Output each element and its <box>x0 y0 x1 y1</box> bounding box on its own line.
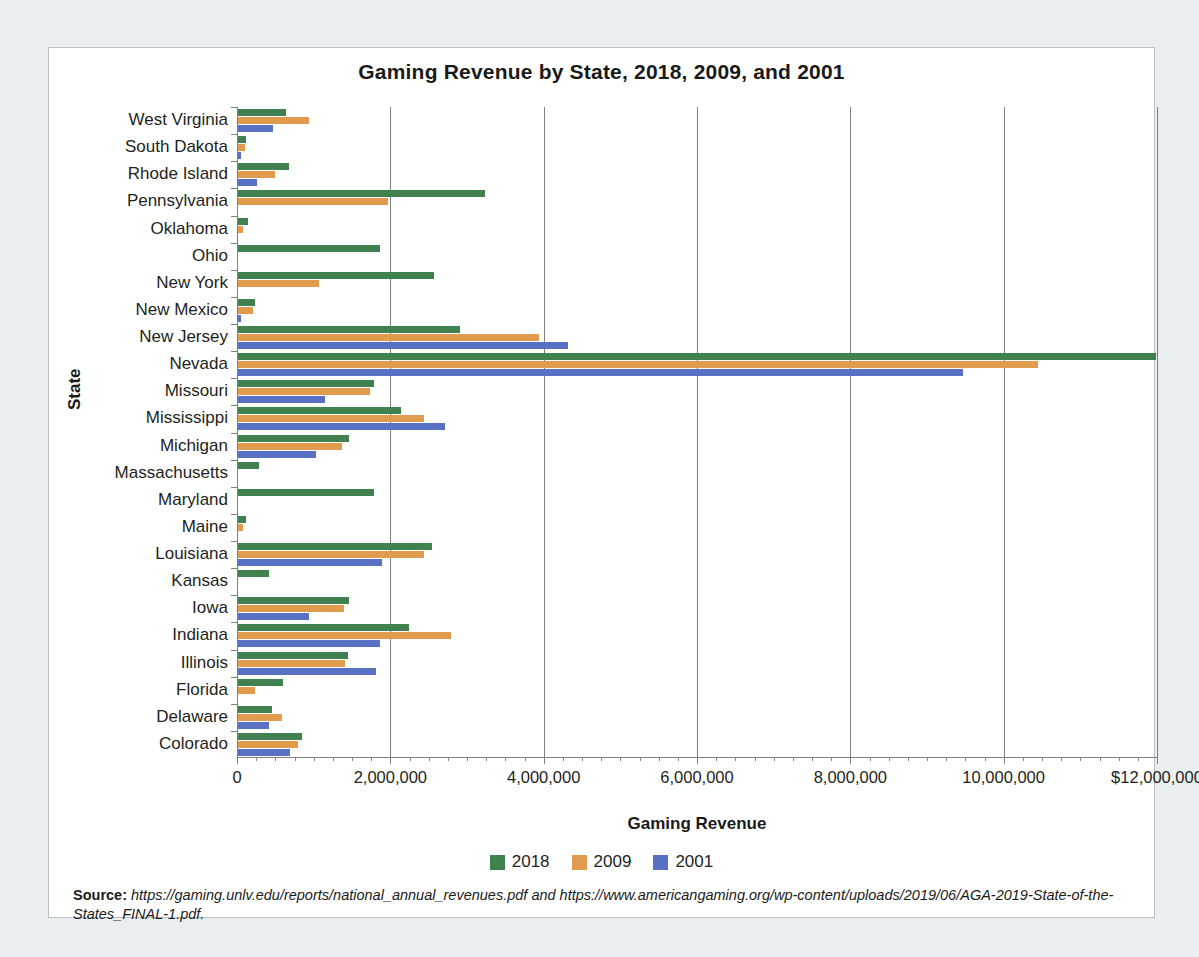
y-axis-tick <box>231 595 237 596</box>
y-axis-category-label: Oklahoma <box>151 218 228 240</box>
plot-area: 02,000,0004,000,0006,000,0008,000,00010,… <box>237 107 1157 758</box>
chart-row: Iowa <box>237 595 1157 622</box>
bar-2001 <box>238 613 309 620</box>
legend-swatch-icon <box>572 855 587 870</box>
x-axis-tick-label: 4,000,000 <box>507 768 580 787</box>
x-axis-minor-tick <box>908 758 909 761</box>
bar-2009 <box>238 714 282 721</box>
x-axis-minor-tick <box>735 758 736 761</box>
y-axis-category-label: Illinois <box>181 652 228 674</box>
bar-2009 <box>238 280 319 287</box>
x-axis-minor-tick <box>1061 758 1062 761</box>
bar-2001 <box>238 559 382 566</box>
bar-2018 <box>238 218 248 225</box>
y-axis-tick <box>231 324 237 325</box>
chart-row: Mississippi <box>237 405 1157 432</box>
bar-2018 <box>238 353 1156 360</box>
chart-figure: Gaming Revenue by State, 2018, 2009, and… <box>48 47 1155 918</box>
x-axis-tick <box>544 758 545 764</box>
bar-2009 <box>238 307 253 314</box>
chart-title: Gaming Revenue by State, 2018, 2009, and… <box>49 60 1154 84</box>
bar-2009 <box>238 632 451 639</box>
y-axis-category-label: Pennsylvania <box>127 190 228 212</box>
y-axis-category-label: Maryland <box>158 489 228 511</box>
y-axis-category-label: Florida <box>176 679 228 701</box>
y-axis-tick <box>231 216 237 217</box>
x-axis-minor-tick <box>601 758 602 761</box>
legend-label: 2009 <box>594 852 632 872</box>
x-axis-tick-label: 8,000,000 <box>814 768 887 787</box>
bar-2018 <box>238 516 246 523</box>
chart-row: Michigan <box>237 433 1157 460</box>
y-axis-category-label: Missouri <box>165 380 228 402</box>
bar-2018 <box>238 543 432 550</box>
x-axis-tick-label: 10,000,000 <box>962 768 1045 787</box>
x-axis-minor-tick <box>927 758 928 761</box>
y-axis-tick <box>231 134 237 135</box>
bar-2009 <box>238 524 243 531</box>
x-axis-minor-tick <box>946 758 947 761</box>
x-axis-minor-tick <box>1023 758 1024 761</box>
y-axis-tick <box>231 487 237 488</box>
chart-row: South Dakota <box>237 134 1157 161</box>
bar-2018 <box>238 597 349 604</box>
bar-2009 <box>238 741 298 748</box>
chart-row: Massachusetts <box>237 460 1157 487</box>
x-axis-minor-tick <box>831 758 832 761</box>
chart-row: Illinois <box>237 650 1157 677</box>
y-axis-tick <box>231 568 237 569</box>
bar-2001 <box>238 125 273 132</box>
x-axis-minor-tick <box>870 758 871 761</box>
chart-row: Maryland <box>237 487 1157 514</box>
x-axis-tick-label: $12,000,000 <box>1111 768 1199 787</box>
x-axis-minor-tick <box>620 758 621 761</box>
chart-row: Indiana <box>237 622 1157 649</box>
chart-row: Delaware <box>237 704 1157 731</box>
x-axis-minor-tick <box>640 758 641 761</box>
y-axis-tick <box>231 731 237 732</box>
bar-2001 <box>238 668 376 675</box>
y-axis-tick <box>231 378 237 379</box>
y-axis-category-label: New Jersey <box>139 326 228 348</box>
legend-label: 2001 <box>675 852 713 872</box>
bar-2018 <box>238 245 380 252</box>
bar-2018 <box>238 163 289 170</box>
x-axis-tick <box>237 758 238 764</box>
y-axis-category-label: Maine <box>182 516 228 538</box>
x-axis-minor-tick <box>965 758 966 761</box>
plot-canvas: 02,000,0004,000,0006,000,0008,000,00010,… <box>237 107 1157 758</box>
bar-2018 <box>238 652 348 659</box>
x-axis-minor-tick <box>716 758 717 761</box>
bar-2018 <box>238 190 485 197</box>
legend-item-2001[interactable]: 2001 <box>653 852 713 872</box>
y-axis-tick <box>231 351 237 352</box>
x-axis-tick-label: 0 <box>232 768 241 787</box>
bar-2009 <box>238 415 424 422</box>
x-axis-tick-label: 2,000,000 <box>354 768 427 787</box>
legend-item-2009[interactable]: 2009 <box>572 852 632 872</box>
legend-item-2018[interactable]: 2018 <box>490 852 550 872</box>
bar-2018 <box>238 272 434 279</box>
y-axis-tick <box>231 433 237 434</box>
chart-row: Kansas <box>237 568 1157 595</box>
chart-row: Colorado <box>237 731 1157 758</box>
y-axis-category-label: Delaware <box>156 706 228 728</box>
y-axis-tick <box>231 270 237 271</box>
bar-2001 <box>238 152 241 159</box>
x-axis-title: Gaming Revenue <box>237 814 1157 834</box>
x-axis-minor-tick <box>256 758 257 761</box>
bar-2018 <box>238 570 269 577</box>
y-axis-category-label: New York <box>156 272 228 294</box>
x-axis-tick <box>697 758 698 764</box>
y-axis-category-label: Kansas <box>171 570 228 592</box>
x-axis-minor-tick <box>333 758 334 761</box>
chart-row: Nevada <box>237 351 1157 378</box>
bar-2001 <box>238 342 568 349</box>
bar-2009 <box>238 117 309 124</box>
bar-2009 <box>238 226 243 233</box>
chart-row: Rhode Island <box>237 161 1157 188</box>
bar-2001 <box>238 396 325 403</box>
y-axis-tick <box>231 704 237 705</box>
x-axis-minor-tick <box>410 758 411 761</box>
bar-2009 <box>238 388 370 395</box>
